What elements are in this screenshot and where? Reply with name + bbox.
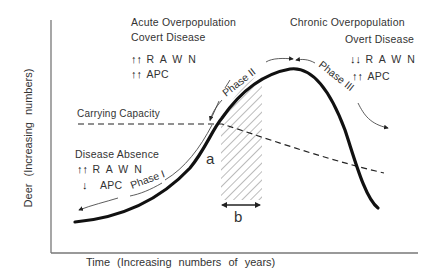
- x-axis-label: Time (Increasing numbers of years): [86, 256, 275, 268]
- chronic-title: Chronic Overpopulation: [290, 16, 405, 28]
- chronic-rawn-arrows: ↓↓: [350, 53, 361, 65]
- chronic-apc-arrows: ↑↑: [352, 70, 363, 82]
- absence-rawn-arrows: ↑↑: [77, 163, 88, 175]
- interval-b-label: b: [234, 208, 243, 225]
- acute-apc-arrows: ↑↑: [131, 68, 142, 80]
- acute-rawn-label: R A W N: [147, 53, 198, 65]
- absence-title: Disease Absence: [75, 148, 159, 160]
- absence-apc-arrows: ↓: [82, 179, 88, 191]
- chronic-apc-label: APC: [368, 70, 390, 82]
- point-a-label: a: [206, 150, 215, 167]
- chronic-subtitle: Overt Disease: [345, 33, 414, 45]
- chronic-rawn-label: R A W N: [366, 53, 417, 65]
- carrying-capacity-label: Carrying Capacity: [77, 108, 160, 119]
- acute-title: Acute Overpopulation: [131, 16, 236, 28]
- absence-rawn-label: R A W N: [93, 163, 144, 175]
- acute-rawn-arrows: ↑↑: [131, 53, 142, 65]
- absence-apc-label: APC: [100, 179, 122, 191]
- acute-apc-label: APC: [147, 68, 169, 80]
- phase-2-arrow: [266, 58, 293, 62]
- y-axis-label: Deer (Increasing numbers): [22, 38, 34, 238]
- phase-3-arrow: [296, 59, 315, 63]
- acute-subtitle: Covert Disease: [131, 31, 206, 43]
